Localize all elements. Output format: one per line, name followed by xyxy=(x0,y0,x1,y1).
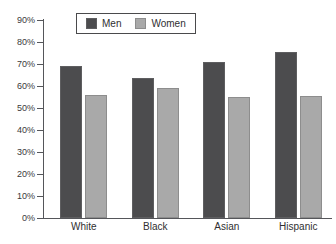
legend-label-women: Women xyxy=(151,19,185,29)
bar-white-women xyxy=(85,95,107,218)
x-axis-label-hispanic: Hispanic xyxy=(257,222,336,232)
bar-group xyxy=(60,20,107,218)
bar-white-men xyxy=(60,66,82,218)
legend-swatch-men xyxy=(86,18,97,29)
x-axis-line xyxy=(43,218,332,219)
legend-label-men: Men xyxy=(102,19,121,29)
bar-hispanic-women xyxy=(300,96,322,218)
bar-black-women xyxy=(157,88,179,218)
y-axis-tick-label: 50% xyxy=(1,104,35,113)
bar-group xyxy=(203,20,250,218)
bar-asian-women xyxy=(228,97,250,218)
y-axis-tick-label: 40% xyxy=(1,126,35,135)
bar-group xyxy=(275,20,322,218)
y-axis-tick-label: 80% xyxy=(1,38,35,47)
plot-area xyxy=(44,20,330,218)
bar-group xyxy=(132,20,179,218)
y-axis-tick-label: 90% xyxy=(1,16,35,25)
y-axis-tick-label: 10% xyxy=(1,192,35,201)
legend-entry-men: Men xyxy=(86,18,121,29)
bar-black-men xyxy=(132,78,154,218)
bar-asian-men xyxy=(203,62,225,218)
legend-swatch-women xyxy=(135,18,146,29)
y-axis-tick-label: 0% xyxy=(1,214,35,223)
chart-legend: MenWomen xyxy=(76,13,196,34)
bar-hispanic-men xyxy=(275,52,297,218)
y-axis-tick-label: 60% xyxy=(1,82,35,91)
bar-chart: 0%10%20%30%40%50%60%70%80%90% WhiteBlack… xyxy=(0,0,336,244)
y-axis-tick-label: 70% xyxy=(1,60,35,69)
legend-entry-women: Women xyxy=(135,18,185,29)
y-axis-tick-label: 30% xyxy=(1,148,35,157)
y-axis-tick-label: 20% xyxy=(1,170,35,179)
